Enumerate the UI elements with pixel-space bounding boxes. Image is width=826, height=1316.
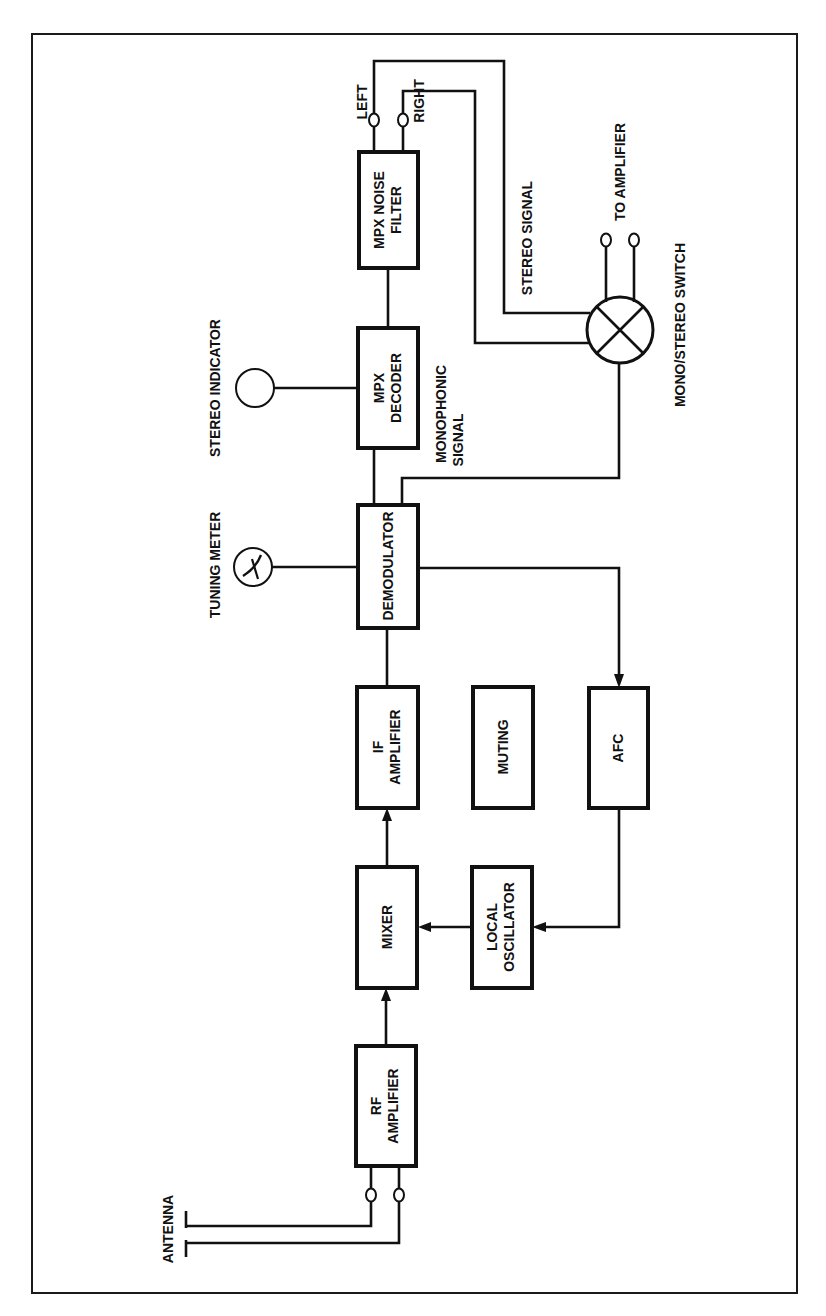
amp-output-terminal-1	[601, 234, 611, 247]
rf-input-terminal-2	[394, 1189, 404, 1202]
arrow-demod-to-afc	[614, 674, 624, 688]
mpx-decoder-block: MPX DECODER	[358, 328, 418, 448]
rf-input-terminal-1	[366, 1189, 376, 1202]
right-stereo-wire	[403, 91, 590, 343]
left-terminal	[369, 114, 379, 127]
arrow-lo-to-mixer	[418, 922, 431, 932]
terminals	[366, 114, 639, 1202]
if-amplifier-block: IF AMPLIFIER	[357, 687, 418, 808]
right-label: RIGHT	[411, 79, 427, 123]
tuning-meter-icon	[234, 548, 272, 586]
stereo-indicator-lamp-icon	[236, 369, 274, 407]
demod-to-afc-wire	[418, 568, 619, 676]
afc-block: AFC	[589, 688, 648, 808]
if-amplifier-label-1: IF	[370, 740, 386, 753]
mixer-block: MIXER	[357, 867, 417, 988]
to-amplifier-label: TO AMPLIFIER	[612, 123, 628, 221]
mpx-decoder-label-1: MPX	[371, 372, 387, 403]
mono-stereo-switch-label: MONO/STEREO SWITCH	[672, 243, 688, 407]
rf-amplifier-block: RF AMPLIFIER	[356, 1046, 416, 1166]
afc-to-lo-wire	[544, 808, 619, 927]
afc-label: AFC	[610, 734, 626, 763]
muting-block: MUTING	[473, 687, 533, 808]
amp-output-terminal-2	[629, 234, 639, 247]
stereo-indicator-label: STEREO INDICATOR	[207, 319, 223, 457]
rf-amplifier-label-1: RF	[368, 1096, 384, 1115]
monophonic-signal-label-1: MONOPHONIC	[433, 365, 449, 463]
block-diagram: RF AMPLIFIER MIXER LOCAL OSCILLATOR IF A…	[0, 0, 826, 1316]
local-oscillator-label-1: LOCAL	[484, 902, 500, 951]
arrow-afc-to-lo	[532, 922, 546, 932]
if-amplifier-label-2: AMPLIFIER	[387, 709, 403, 784]
tuning-meter-label: TUNING METER	[207, 512, 223, 619]
rf-amplifier-label-2: AMPLIFIER	[385, 1068, 401, 1143]
monophonic-signal-label-2: SIGNAL	[450, 413, 466, 466]
mpx-noise-filter-label-2: FILTER	[388, 186, 404, 234]
mono-stereo-switch-icon	[587, 297, 653, 363]
mpx-noise-filter-label-1: MPX NOISE	[371, 171, 387, 249]
mpx-noise-filter-block: MPX NOISE FILTER	[359, 152, 418, 268]
mpx-decoder-label-2: DECODER	[388, 353, 404, 423]
local-oscillator-block: LOCAL OSCILLATOR	[472, 867, 532, 988]
stereo-signal-label: STEREO SIGNAL	[519, 180, 535, 295]
local-oscillator-label-2: OSCILLATOR	[501, 882, 517, 972]
left-label: LEFT	[354, 84, 370, 119]
demodulator-block: DEMODULATOR	[358, 505, 418, 628]
demodulator-label: DEMODULATOR	[380, 511, 396, 620]
antenna-label: ANTENNA	[160, 1195, 176, 1263]
antenna-wire-upper	[186, 1201, 371, 1226]
right-terminal	[398, 114, 408, 127]
mixer-label: MIXER	[379, 905, 395, 949]
antenna-wire-lower	[186, 1201, 399, 1243]
muting-label: MUTING	[495, 719, 511, 774]
